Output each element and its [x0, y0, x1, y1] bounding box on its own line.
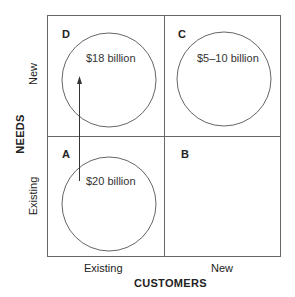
matrix-graphic [0, 0, 295, 297]
quadrant-letter-c: C [178, 28, 186, 40]
arrow-head-icon [77, 76, 82, 84]
y-tick-existing: Existing [27, 171, 39, 221]
x-tick-existing: Existing [84, 262, 123, 274]
y-axis-title: NEEDS [14, 114, 26, 154]
circle-c [177, 32, 271, 126]
y-tick-new: New [27, 59, 39, 89]
quadrant-value-a: $20 billion [86, 175, 136, 187]
quadrant-letter-b: B [181, 148, 189, 160]
quadrant-letter-a: A [62, 148, 70, 160]
circle-d [62, 33, 156, 127]
quadrant-value-c: $5–10 billion [197, 52, 259, 64]
circle-a [62, 157, 156, 251]
quadrant-letter-d: D [62, 28, 70, 40]
x-axis-title: CUSTOMERS [134, 277, 207, 289]
quadrant-value-d: $18 billion [86, 52, 136, 64]
x-tick-new: New [211, 262, 233, 274]
